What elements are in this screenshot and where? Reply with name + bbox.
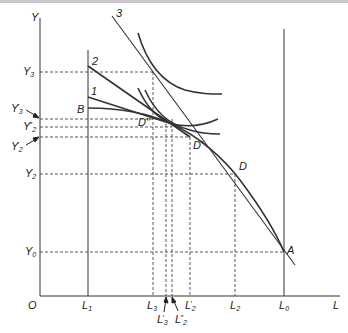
point-label-d: D [239,161,247,172]
point-label-d-double-prime: D″ [138,117,150,128]
curve-label-1: 1 [91,86,97,97]
x-label-l1: L1 [82,300,92,312]
y-label-y2-prime: Y′2 [11,141,23,153]
point-label-d-prime: D′ [193,140,203,151]
curve-label-2: 2 [92,56,98,67]
y-label-y0: Y0 [25,246,36,258]
origin-label: O [28,300,37,311]
x-label-l3-prime: L′3 [157,314,168,326]
y-label-y3: Y3 [23,66,34,78]
x-label-l2-double-prime: L″2 [175,314,187,326]
point-label-b: B [77,104,84,115]
indifference-curve-top [138,33,222,94]
point-label-a: A [287,245,294,256]
y-label-y3-prime: Y′3 [11,103,23,115]
y-label-y2: Y2 [25,168,36,180]
y-axis-label: Y [31,12,38,23]
x-label-l0: L0 [279,300,289,312]
x-label-l2-prime: L′2 [185,300,196,312]
x-label-l2: L2 [230,300,240,312]
x-label-l3: L3 [147,300,157,312]
curve-label-3: 3 [116,8,122,19]
x-axis-label: L [333,300,339,311]
label-arrows [26,110,178,312]
line-3 [112,16,295,265]
diagram-canvas [0,0,348,333]
line-1 [88,97,172,124]
y-label-y2-double-prime: Y″2 [23,121,36,133]
